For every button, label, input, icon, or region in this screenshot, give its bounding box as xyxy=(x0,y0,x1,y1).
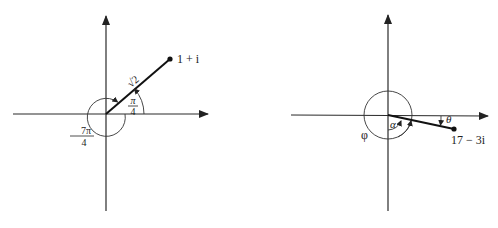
left-diagram: 1 + i √2 π 4 7π 4 xyxy=(13,16,208,211)
phi-label: φ xyxy=(361,128,368,142)
point-17-minus-3i xyxy=(451,126,456,131)
alpha-label: α xyxy=(390,118,396,130)
theta-label: θ xyxy=(446,113,452,125)
pi-over-4-numerator: π xyxy=(130,95,136,106)
vector-17-minus-3i xyxy=(388,115,454,129)
point-label-17-minus-3i: 17 − 3i xyxy=(451,133,486,147)
angle-pi-over-4-arc xyxy=(135,89,145,114)
point-label-1-plus-i: 1 + i xyxy=(177,52,200,66)
point-1-plus-i xyxy=(167,56,172,61)
right-diagram: 17 − 3i θ α φ xyxy=(291,15,488,211)
angle-theta-arc xyxy=(441,116,442,125)
neg-7pi-over-4-numerator: 7π xyxy=(81,125,91,136)
complex-plane-figure: 1 + i √2 π 4 7π 4 17 − 3i θ α φ xyxy=(0,0,498,228)
neg-7pi-over-4-denominator: 4 xyxy=(82,137,87,148)
pi-over-4-denominator: 4 xyxy=(131,106,136,117)
